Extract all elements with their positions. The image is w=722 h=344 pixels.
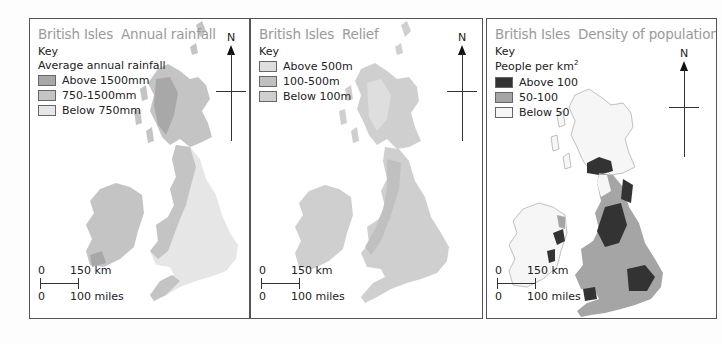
- legend-label: 750-1500mm: [62, 89, 136, 102]
- scale-bar: 0 150 km 0 100 miles: [495, 264, 605, 304]
- scale-bar: 0 150 km 0 100 miles: [259, 264, 369, 304]
- population-map-panel: British IslesDensity of population Key P…: [486, 18, 717, 319]
- north-label: N: [216, 31, 246, 44]
- legend-label: Above 1500mm: [62, 74, 149, 87]
- key-label: Key: [495, 45, 515, 58]
- legend: Above 1500mm 750-1500mm Below 750mm: [38, 73, 149, 118]
- legend-swatch: [38, 105, 56, 116]
- legend-label: Above 100: [519, 76, 578, 89]
- scale-bar: 0 150 km 0 100 miles: [38, 264, 148, 304]
- legend-item: Above 1500mm: [38, 73, 149, 88]
- key-label: Key: [38, 45, 58, 58]
- map-title-region: British Isles: [259, 26, 334, 42]
- legend-swatch: [38, 75, 56, 86]
- legend-swatch: [259, 61, 277, 72]
- scale-km-zero: 0: [495, 264, 502, 277]
- legend-swatch: [495, 92, 513, 103]
- map-title: British IslesDensity of population: [495, 26, 717, 42]
- legend-item: Below 750mm: [38, 103, 149, 118]
- legend-label: Above 500m: [283, 60, 353, 73]
- map-title: British IslesAnnual rainfall: [38, 26, 216, 42]
- key-label: Key: [259, 45, 279, 58]
- key-heading: Average annual rainfall: [38, 59, 166, 72]
- scale-km-label: 150 km: [527, 264, 569, 277]
- relief-map-panel: British IslesRelief Key Above 500m 100-5…: [250, 18, 483, 319]
- legend-swatch: [259, 91, 277, 102]
- legend-item: 50-100: [495, 90, 578, 105]
- key-heading-text: People per km: [495, 60, 574, 73]
- map-title: British IslesRelief: [259, 26, 378, 42]
- scale-km-zero: 0: [259, 264, 266, 277]
- scale-mi-zero: 0: [495, 290, 502, 303]
- scale-mi-zero: 0: [259, 290, 266, 303]
- north-arrow-icon: N: [669, 47, 699, 157]
- scale-mi-zero: 0: [38, 290, 45, 303]
- legend-label: Below 750mm: [62, 104, 141, 117]
- legend-item: Above 100: [495, 75, 578, 90]
- legend: Above 100 50-100 Below 50: [495, 75, 578, 120]
- north-arrow-icon: N: [447, 31, 477, 141]
- map-title-subject: Density of population: [578, 26, 717, 42]
- map-title-subject: Relief: [342, 26, 378, 42]
- legend: Above 500m 100-500m Below 100m: [259, 59, 353, 104]
- legend-swatch: [38, 90, 56, 101]
- key-heading: People per km2: [495, 59, 578, 73]
- legend-label: Below 100m: [283, 90, 351, 103]
- key-heading-superscript: 2: [574, 59, 578, 67]
- legend-item: Below 50: [495, 105, 578, 120]
- scale-mi-label: 100 miles: [70, 290, 124, 303]
- legend-label: 100-500m: [283, 75, 340, 88]
- rainfall-map-panel: British IslesAnnual rainfall Key Average…: [29, 18, 250, 319]
- north-arrow-icon: N: [216, 31, 246, 141]
- scale-mi-label: 100 miles: [527, 290, 581, 303]
- scale-km-label: 150 km: [291, 264, 333, 277]
- map-title-region: British Isles: [38, 26, 113, 42]
- map-title-region: British Isles: [495, 26, 570, 42]
- legend-item: 100-500m: [259, 74, 353, 89]
- scale-mi-label: 100 miles: [291, 290, 345, 303]
- north-label: N: [669, 47, 699, 60]
- legend-swatch: [495, 107, 513, 118]
- legend-label: 50-100: [519, 91, 558, 104]
- map-title-subject: Annual rainfall: [121, 26, 216, 42]
- legend-item: Above 500m: [259, 59, 353, 74]
- scale-km-label: 150 km: [70, 264, 112, 277]
- north-label: N: [447, 31, 477, 44]
- legend-swatch: [259, 76, 277, 87]
- legend-swatch: [495, 77, 513, 88]
- legend-item: Below 100m: [259, 89, 353, 104]
- legend-item: 750-1500mm: [38, 88, 149, 103]
- scale-km-zero: 0: [38, 264, 45, 277]
- legend-label: Below 50: [519, 106, 570, 119]
